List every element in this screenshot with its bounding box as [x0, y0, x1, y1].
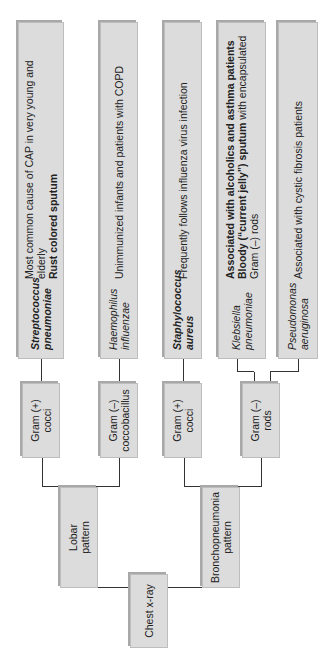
gram-positive-cocci-node: Gram (+) cocci: [22, 383, 60, 458]
organism-node-staphylococcus: Staphylococcus aureus Frequently follows…: [164, 22, 202, 359]
gram-negative-coccobacillus-node: Gram (–) coccobacillus: [100, 383, 138, 458]
gram-positive-cocci-node: Gram (+) cocci: [164, 383, 202, 458]
organism-node-streptococcus: Streptococcus pneumoniae Most common cau…: [18, 22, 64, 359]
node-label: Bronchopneumonia pattern: [209, 492, 233, 583]
pneumonia-diagnosis-flowchart: Chest x-ray Lobar pattern Bronchopneumon…: [0, 0, 324, 656]
organism-description: Associated with alcoholics and asthma pa…: [224, 32, 260, 283]
connector: [119, 457, 120, 487]
node-label: Gram (+) cocci: [29, 399, 53, 441]
organism-node-pseudomonas: Pseudomonas aeruginosa Associated with c…: [278, 22, 318, 359]
node-label: Gram (+) cocci: [171, 399, 195, 441]
organism-node-haemophilus: Haemophilus influenzae Unimmunized infan…: [100, 22, 138, 359]
organism-description: Most common cause of CAP in very young a…: [23, 23, 59, 283]
lobar-pattern-node: Lobar pattern: [60, 487, 98, 588]
organism-name: Klebsiella pneumoniae: [230, 283, 254, 358]
node-label: Gram (–) coccobacillus: [107, 389, 131, 451]
organism-name: Staphylococcus aureus: [171, 283, 195, 358]
connector: [270, 372, 271, 383]
gram-negative-rods-node: Gram (–) rods: [242, 383, 280, 458]
connector: [237, 371, 254, 372]
organism-node-klebsiella: Klebsiella pneumoniae Associated with al…: [218, 22, 266, 359]
bronchopneumonia-pattern-node: Bronchopneumonia pattern: [202, 487, 240, 588]
connector: [183, 359, 184, 383]
organism-name: Pseudomonas aeruginosa: [286, 283, 310, 358]
connector: [261, 457, 262, 487]
chest-xray-node: Chest x-ray: [130, 574, 168, 648]
connector: [41, 359, 42, 383]
connector: [254, 372, 255, 383]
connector: [119, 359, 120, 383]
node-label: Chest x-ray: [143, 584, 155, 638]
connector: [270, 371, 298, 372]
connector: [237, 359, 238, 372]
connector: [298, 359, 299, 372]
organism-description: Associated with cystic fibrosis patients: [292, 97, 304, 283]
organism-description: Frequently follows influenza virus infec…: [177, 78, 189, 283]
connector: [42, 457, 43, 487]
organism-name: Streptococcus pneumoniae: [29, 283, 53, 358]
node-label: Gram (–) rods: [249, 400, 273, 442]
organism-name: Haemophilus influenzae: [107, 283, 131, 358]
organism-description: Unimmunized infants and patients with CO…: [113, 62, 125, 283]
node-label: Lobar pattern: [67, 521, 91, 554]
connector: [184, 457, 185, 487]
